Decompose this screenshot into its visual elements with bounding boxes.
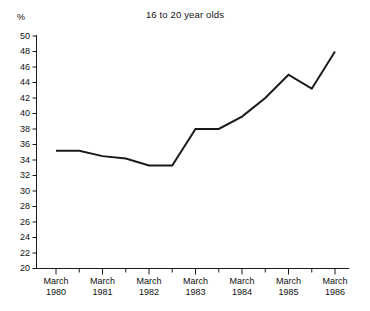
x-tick-label-month: March	[183, 276, 208, 286]
y-tick-label: 38	[8, 125, 30, 134]
y-tick-label: 30	[8, 187, 30, 196]
x-tick-label-month: March	[322, 276, 347, 286]
x-tick-label: March1986	[307, 276, 363, 298]
data-series-line	[56, 52, 335, 166]
y-tick-label: 50	[8, 32, 30, 41]
x-tick-label-year: 1986	[307, 287, 363, 298]
x-tick-label-month: March	[136, 276, 161, 286]
y-tick-label: 42	[8, 94, 30, 103]
y-tick-label: 26	[8, 218, 30, 227]
x-tick-label-month: March	[229, 276, 254, 286]
y-tick-label: 44	[8, 78, 30, 87]
y-axis-ticks	[33, 36, 37, 269]
y-tick-label: 22	[8, 249, 30, 258]
y-tick-label: 36	[8, 140, 30, 149]
x-tick-label-month: March	[43, 276, 68, 286]
y-tick-label: 46	[8, 63, 30, 72]
y-tick-label: 32	[8, 171, 30, 180]
x-tick-label-month: March	[276, 276, 301, 286]
x-axis-ticks	[56, 269, 335, 275]
line-chart: 16 to 20 year olds % 5048464442403836343…	[0, 0, 370, 311]
y-tick-label: 28	[8, 202, 30, 211]
y-tick-label: 34	[8, 156, 30, 165]
y-tick-label: 20	[8, 264, 30, 273]
x-tick-label-month: March	[90, 276, 115, 286]
y-tick-label: 40	[8, 109, 30, 118]
y-tick-label: 24	[8, 233, 30, 242]
y-tick-label: 48	[8, 47, 30, 56]
plot-area	[0, 0, 370, 311]
